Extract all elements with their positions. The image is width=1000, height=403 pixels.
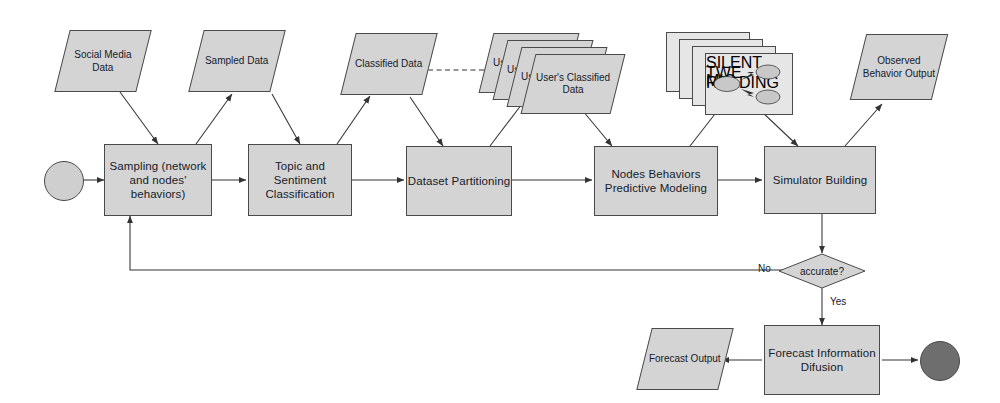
decision-label: accurate? xyxy=(778,253,866,289)
mini-arrow-bottom xyxy=(741,89,754,97)
data-node-observed-behavior-output: Observed Behavior Output xyxy=(850,34,948,100)
users-classified-data-sheet-front: User's Classified Data xyxy=(521,54,626,114)
mini-node-target-top xyxy=(756,65,780,79)
data-node-sampled-data: Sampled Data xyxy=(188,30,285,92)
process-nodes-behaviors-predictive-modeling: Nodes Behaviors Predictive Modeling xyxy=(594,146,718,216)
decision-accurate: accurate? xyxy=(778,253,866,289)
process-sampling: Sampling (network and nodes' behaviors) xyxy=(104,144,212,216)
edge-simulator-to-observed xyxy=(845,104,882,146)
simulator-model-stack: SILENT MIC TWE READING xyxy=(666,32,792,118)
sampled-data-label: Sampled Data xyxy=(205,55,268,68)
simulator-building-label: Simulator Building xyxy=(773,173,868,187)
process-simulator-building: Simulator Building xyxy=(764,146,876,214)
process-forecast-information-difusion: Forecast Information Difusion xyxy=(764,325,880,395)
topic-sentiment-label: Topic and Sentiment Classification xyxy=(249,159,351,201)
mini-arrow-top xyxy=(741,72,754,80)
forecast-diffusion-label: Forecast Information Difusion xyxy=(765,346,879,374)
mini-node-source xyxy=(714,77,740,92)
start-node xyxy=(44,161,84,201)
edge-sampling-to-sampleddata xyxy=(196,94,232,144)
nodes-behaviors-label: Nodes Behaviors Predictive Modeling xyxy=(595,167,717,195)
end-node xyxy=(920,341,960,381)
decision-no-label: No xyxy=(758,263,771,274)
decision-yes-label: Yes xyxy=(830,296,846,307)
data-node-users-classified-data-stack: Us Us Us User's Classified Data xyxy=(486,33,616,113)
sampling-label: Sampling (network and nodes' behaviors) xyxy=(105,159,211,201)
simulator-model-sheet-front: SILENT MIC TWE READING xyxy=(705,53,793,115)
edge-decision-no-feedback xyxy=(130,216,787,270)
users-classified-data-label: User's Classified Data xyxy=(529,72,617,97)
data-node-social-media-data: Social Media Data xyxy=(54,30,151,92)
process-topic-sentiment-classification: Topic and Sentiment Classification xyxy=(248,144,352,216)
process-dataset-partitioning: Dataset Partitioning xyxy=(406,146,512,216)
edge-sampleddata-to-topic xyxy=(272,94,300,144)
data-node-classified-data: Classified Data xyxy=(340,33,437,95)
edge-topic-to-classifieddata xyxy=(337,96,370,144)
mini-state-diagram xyxy=(710,59,788,109)
flowchart-diagram: Social Media Data Sampled Data Classifie… xyxy=(0,0,1000,403)
social-media-data-label: Social Media Data xyxy=(63,49,143,74)
edge-classifieddata-to-partitioning xyxy=(410,97,443,146)
data-node-forecast-output: Forecast Output xyxy=(636,328,733,390)
forecast-output-label: Forecast Output xyxy=(649,353,721,366)
classified-data-label: Classified Data xyxy=(355,58,422,71)
observed-behavior-output-label: Observed Behavior Output xyxy=(859,55,939,80)
mini-node-target-bottom xyxy=(756,90,780,104)
edge-socialmedia-to-sampling xyxy=(120,92,158,144)
dataset-partitioning-label: Dataset Partitioning xyxy=(408,174,510,188)
